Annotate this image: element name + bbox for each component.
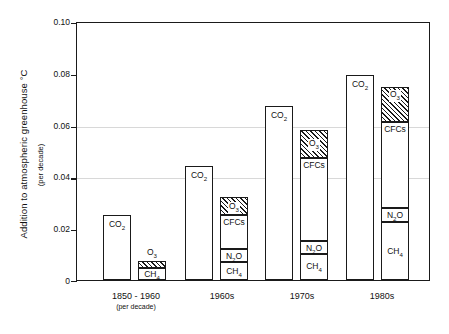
gridline-006	[77, 127, 429, 128]
bar-1970s-other[interactable]: CH4 N2O CFCs O3	[300, 130, 328, 280]
segment-o3[interactable]: O3	[300, 130, 328, 158]
segment-o3[interactable]: O3	[381, 87, 409, 122]
x-label-main: 1850 - 1960	[112, 291, 160, 301]
segment-label-o3: O3	[138, 248, 166, 260]
x-label-main: 1980s	[370, 291, 395, 301]
segment-label-cfcs: CFCs	[221, 218, 247, 227]
segment-label-ch4: CH4	[301, 262, 327, 274]
y-tick-mark-008	[71, 75, 77, 76]
bar-1980s-co2[interactable]: CO2	[346, 75, 374, 280]
segment-label-cfcs: CFCs	[301, 161, 327, 170]
x-label-main: 1970s	[290, 291, 315, 301]
segment-label-o3: O3	[228, 202, 240, 214]
bar-label-co2: CO2	[266, 111, 292, 123]
gridline-004	[77, 178, 429, 179]
x-label-1970s: 1970s	[262, 291, 342, 302]
segment-n2o[interactable]: N2O	[300, 241, 328, 254]
plot-area: CO2 CH4 O3 CO2 CH4 N2O CFCs	[76, 22, 430, 281]
y-tick-mark-010	[71, 23, 77, 24]
segment-cfcs[interactable]: CFCs	[381, 122, 409, 208]
greenhouse-contribution-chart: Addition to atmospheric greenhouse °C (p…	[0, 0, 449, 334]
bar-1960s-co2[interactable]: CO2	[185, 166, 213, 280]
bar-1850-1960-other[interactable]: CH4 O3	[138, 261, 166, 280]
y-tick-mark-000	[71, 281, 77, 282]
segment-o3[interactable]	[138, 261, 166, 269]
x-label-1850-1960: 1850 - 1960 (per decade)	[88, 291, 184, 311]
segment-label-o3: O3	[308, 139, 320, 151]
bar-label-co2: CO2	[104, 220, 130, 232]
bar-1850-1960-co2[interactable]: CO2	[103, 215, 131, 280]
bar-1960s-other[interactable]: CH4 N2O CFCs O3	[220, 197, 248, 280]
bar-label-co2: CO2	[186, 171, 212, 183]
segment-label-ch4: CH4	[221, 267, 247, 279]
segment-ch4[interactable]: CH4	[220, 262, 248, 280]
x-label-1980s: 1980s	[342, 291, 422, 302]
y-tick-mark-006	[71, 127, 77, 128]
bar-1970s-co2[interactable]: CO2	[265, 106, 293, 280]
y-tick-006: 0.06	[36, 122, 70, 131]
y-tick-mark-004	[71, 178, 77, 179]
y-axis-tick-labels: 0.10 0.08 0.06 0.04 0.02 0	[36, 0, 70, 334]
y-tick-002: 0.02	[36, 225, 70, 234]
x-label-main: 1960s	[210, 291, 235, 301]
segment-label-o3: O3	[389, 90, 401, 102]
segment-label-ch4: CH4	[382, 247, 408, 259]
segment-label-cfcs: CFCs	[382, 125, 408, 134]
segment-label-n2o: N2O	[301, 244, 327, 256]
segment-label-ch4: CH4	[139, 270, 165, 282]
segment-o3[interactable]: O3	[220, 197, 248, 215]
segment-n2o[interactable]: N2O	[220, 249, 248, 262]
y-axis-title-container: Addition to atmospheric greenhouse °C	[14, 34, 32, 274]
y-tick-000: 0	[36, 277, 70, 286]
segment-label-n2o: N2O	[382, 211, 408, 223]
segment-ch4[interactable]: CH4	[300, 254, 328, 280]
x-label-sub: (per decade)	[88, 302, 184, 311]
segment-cfcs[interactable]: CFCs	[220, 215, 248, 249]
y-tick-004: 0.04	[36, 173, 70, 182]
segment-n2o[interactable]: N2O	[381, 208, 409, 222]
y-tick-mark-002	[71, 230, 77, 231]
segment-ch4[interactable]: CH4	[138, 268, 166, 280]
y-tick-010: 0.10	[36, 18, 70, 27]
x-label-1960s: 1960s	[182, 291, 262, 302]
segment-label-n2o: N2O	[221, 252, 247, 264]
bar-label-co2: CO2	[347, 80, 373, 92]
bar-1980s-other[interactable]: CH4 N2O CFCs O3	[381, 87, 409, 280]
y-axis-title: Addition to atmospheric greenhouse °C	[18, 69, 29, 238]
segment-cfcs[interactable]: CFCs	[300, 158, 328, 241]
segment-ch4[interactable]: CH4	[381, 222, 409, 280]
y-tick-008: 0.08	[36, 70, 70, 79]
